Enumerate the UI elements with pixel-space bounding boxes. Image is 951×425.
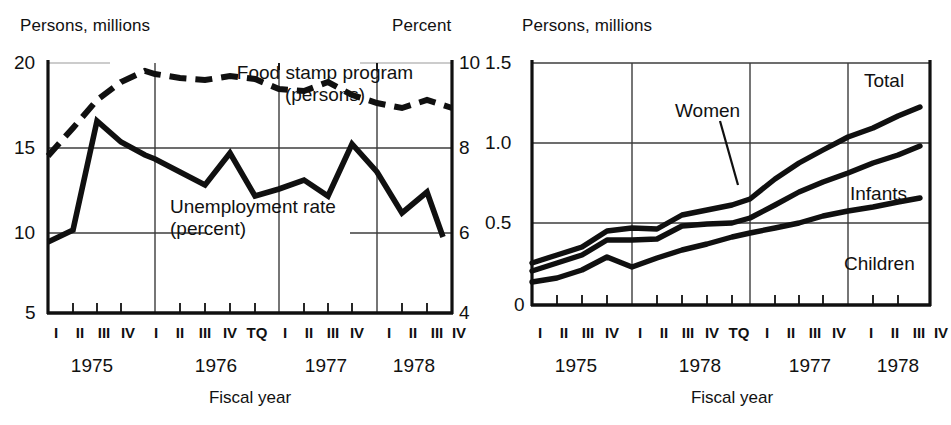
- quarter-tick-label: III: [682, 324, 695, 341]
- quarter-tick-label: TQ: [247, 324, 268, 341]
- quarter-tick-label: IV: [350, 324, 364, 341]
- quarter-tick-label: II: [660, 324, 668, 341]
- right-chart-annotation-children: Children: [844, 253, 915, 275]
- quarter-tick-label: III: [582, 324, 595, 341]
- quarter-tick-label: III: [809, 324, 822, 341]
- quarter-tick-label: II: [787, 324, 795, 341]
- left-chart-annotation-unemployment-line1: Unemployment rate: [170, 196, 336, 217]
- year-label: 1975: [71, 355, 113, 377]
- right-chart-year-labels: 1975197819771978: [470, 355, 951, 379]
- left-chart-year-labels: 1975197619771978: [0, 355, 470, 379]
- quarter-tick-label: I: [765, 324, 769, 341]
- quarter-tick-label: II: [409, 324, 417, 341]
- left-chart-annotation-unemployment-line2: (percent): [170, 218, 246, 239]
- quarter-tick-label: IV: [121, 324, 135, 341]
- quarter-tick-label: III: [98, 324, 111, 341]
- quarter-tick-label: III: [431, 324, 444, 341]
- right-chart-annotation-total: Total: [864, 70, 904, 92]
- quarter-tick-label: III: [199, 324, 212, 341]
- left-chart-annotation-unemployment: Unemployment rate (percent): [170, 196, 336, 240]
- left-chart-annotation-food-stamp-line2: (persons): [285, 84, 365, 105]
- quarter-tick-label: III: [913, 324, 926, 341]
- quarter-tick-label: IV: [832, 324, 846, 341]
- year-label: 1977: [789, 355, 831, 377]
- year-label: 1978: [877, 355, 919, 377]
- quarter-tick-label: II: [176, 324, 184, 341]
- quarter-tick-label: II: [305, 324, 313, 341]
- quarter-tick-label: IV: [705, 324, 719, 341]
- quarter-tick-label: II: [76, 324, 84, 341]
- left-chart-quarter-tick-labels: IIIIIIIVIIIIIIIVTQIIIIIIIVIIIIIIIV: [0, 324, 470, 346]
- quarter-tick-label: III: [327, 324, 340, 341]
- right-chart-quarter-tick-labels: IIIIIIIVIIIIIIIVTQIIIIIIIVIIIIIIIV: [470, 324, 951, 346]
- quarter-tick-label: II: [891, 324, 899, 341]
- left-chart-annotation-food-stamp-line1: Food stamp program: [237, 62, 413, 83]
- year-label: 1978: [679, 355, 721, 377]
- year-label: 1975: [555, 355, 597, 377]
- quarter-tick-label: I: [154, 324, 158, 341]
- left-chart-annotation-food-stamp: Food stamp program (persons): [210, 62, 440, 106]
- right-chart-annotation-infants: Infants: [850, 183, 907, 205]
- right-chart-women-leader-line: [720, 121, 738, 185]
- quarter-tick-label: I: [538, 324, 542, 341]
- quarter-tick-label: IV: [934, 324, 948, 341]
- year-label: 1978: [393, 355, 435, 377]
- left-chart-x-axis-title: Fiscal year: [209, 388, 291, 408]
- quarter-tick-label: I: [54, 324, 58, 341]
- year-label: 1976: [195, 355, 237, 377]
- chart-panel-food-stamp: Persons, millions Percent 20 15 10 5 10 …: [0, 0, 470, 425]
- quarter-tick-label: I: [283, 324, 287, 341]
- quarter-tick-label: II: [560, 324, 568, 341]
- quarter-tick-label: TQ: [729, 324, 750, 341]
- dual-line-chart-figure: Persons, millions Percent 20 15 10 5 10 …: [0, 0, 951, 425]
- quarter-tick-label: I: [869, 324, 873, 341]
- right-chart-annotation-women: Women: [675, 100, 740, 122]
- chart-panel-wic: Persons, millions 1.5 1.0 0.5 0: [470, 0, 951, 425]
- quarter-tick-label: I: [387, 324, 391, 341]
- quarter-tick-label: IV: [605, 324, 619, 341]
- quarter-tick-label: IV: [452, 324, 466, 341]
- right-chart-x-axis-title: Fiscal year: [691, 388, 773, 408]
- year-label: 1977: [305, 355, 347, 377]
- quarter-tick-label: IV: [223, 324, 237, 341]
- quarter-tick-label: I: [638, 324, 642, 341]
